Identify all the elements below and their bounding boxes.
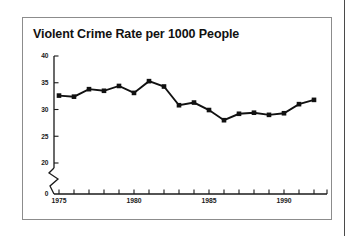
data-point-marker	[117, 84, 122, 89]
x-tick-label: 1985	[201, 197, 216, 204]
data-point-marker	[252, 110, 257, 115]
y-tick-label: 20	[41, 159, 49, 166]
data-point-marker	[102, 88, 107, 93]
data-point-marker	[282, 111, 287, 116]
line-chart: 02025303540 1975198019851990	[23, 18, 333, 221]
data-point-marker	[222, 118, 227, 123]
data-point-marker	[192, 100, 197, 105]
y-tick-label: 30	[41, 106, 49, 113]
y-tick-label: 35	[41, 79, 49, 86]
data-point-marker	[297, 102, 302, 107]
y-tick-label: 40	[41, 52, 49, 59]
y-tick-label: 0	[45, 190, 49, 197]
y-axis-break-zigzag	[49, 168, 58, 194]
data-series-violent-crime-rate	[57, 79, 317, 123]
data-point-marker	[132, 91, 137, 96]
chart-plot-area: 02025303540 1975198019851990	[23, 18, 333, 221]
data-point-marker	[312, 98, 317, 103]
page-edge-rule	[344, 0, 345, 236]
data-point-marker	[147, 79, 152, 84]
data-point-marker	[237, 111, 242, 116]
x-tick-label: 1980	[126, 197, 141, 204]
data-point-marker	[72, 94, 77, 99]
data-point-marker	[177, 103, 182, 108]
data-point-marker	[57, 93, 62, 98]
x-tick-label: 1975	[51, 197, 66, 204]
x-tick-label: 1990	[276, 197, 291, 204]
series-polyline	[59, 81, 314, 120]
data-point-marker	[87, 87, 92, 92]
data-point-marker	[162, 84, 167, 89]
y-axis: 02025303540	[41, 52, 58, 197]
figure-frame: Violent Crime Rate per 1000 People 02025…	[22, 17, 332, 220]
x-axis: 1975198019851990	[51, 190, 327, 205]
data-point-marker	[207, 108, 212, 113]
y-tick-label: 25	[41, 133, 49, 140]
data-point-marker	[267, 113, 272, 118]
